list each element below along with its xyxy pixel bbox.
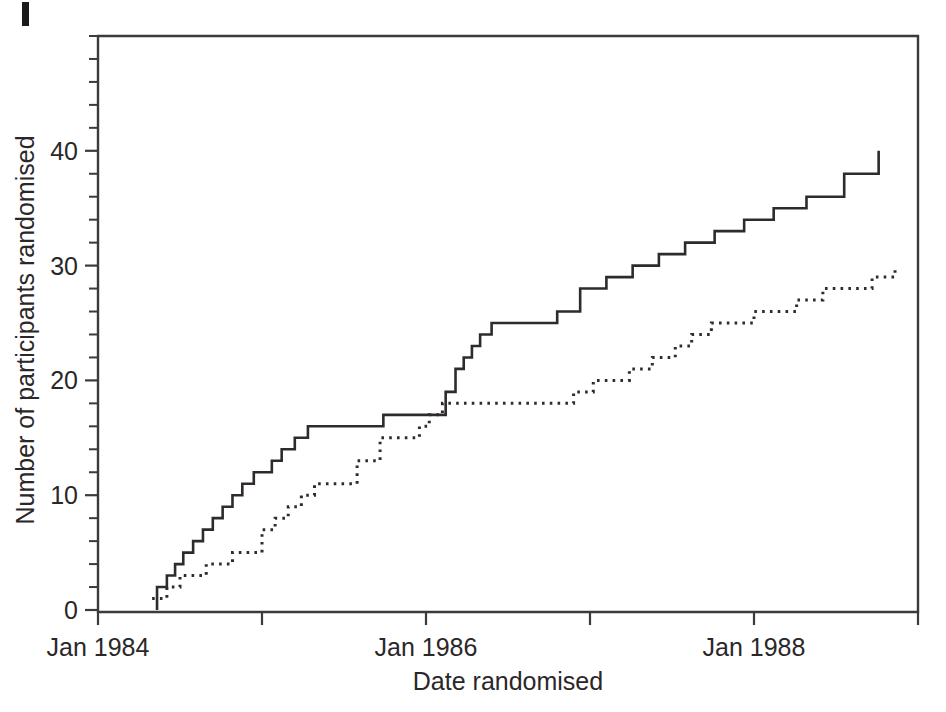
series-line-dashed <box>152 266 895 599</box>
x-tick-label: Jan 1986 <box>375 633 478 661</box>
y-axis-tick-labels: 010203040 <box>50 137 78 624</box>
y-tick-label: 10 <box>50 481 78 509</box>
figure-container: 010203040 Jan 1984Jan 1986Jan 1988 Date … <box>0 0 946 712</box>
page-edge-artifact <box>22 2 29 26</box>
x-tick-label: Jan 1988 <box>703 633 806 661</box>
y-tick-label: 20 <box>50 366 78 394</box>
series-line-solid <box>157 151 879 610</box>
x-axis-ticks <box>98 612 918 625</box>
y-tick-label: 0 <box>64 596 78 624</box>
y-axis-ticks <box>85 36 98 610</box>
x-axis-title: Date randomised <box>413 667 603 695</box>
x-axis-tick-labels: Jan 1984Jan 1986Jan 1988 <box>47 633 806 661</box>
x-tick-label: Jan 1984 <box>47 633 150 661</box>
y-axis-title: Number of participants randomised <box>11 135 39 524</box>
y-tick-label: 30 <box>50 252 78 280</box>
recruitment-step-chart: 010203040 Jan 1984Jan 1986Jan 1988 Date … <box>0 0 946 712</box>
y-tick-label: 40 <box>50 137 78 165</box>
